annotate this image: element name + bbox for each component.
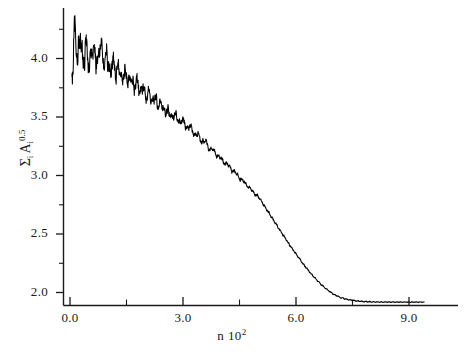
y-major-ticks xyxy=(56,59,64,293)
x-tick-label-0-0: 0.0 xyxy=(50,310,90,326)
x-minor-ticks xyxy=(127,300,353,306)
y-tick-label-2-5: 2.5 xyxy=(18,225,48,241)
x-tick-label-3-0: 3.0 xyxy=(163,310,203,326)
axes-group xyxy=(64,8,459,306)
x-tick-label-6-0: 6.0 xyxy=(276,310,316,326)
x-axis-title-exponent: 2 xyxy=(242,327,247,337)
x-tick-label-9-0: 9.0 xyxy=(389,310,429,326)
y-tick-label-4-0: 4.0 xyxy=(18,50,48,66)
y-tick-label-2-0: 2.0 xyxy=(18,284,48,300)
y-axis-title: ΣiAi0.5 xyxy=(18,108,34,188)
figure-container: 4.0 3.5 3.0 2.5 2.0 0.0 3.0 6.0 9.0 n 10… xyxy=(0,0,464,356)
y-axis-variable-subscript: i xyxy=(25,141,35,144)
x-axis-title-base: n 10 xyxy=(217,328,241,343)
y-axis-sigma: Σ xyxy=(18,158,33,166)
y-axis-variable: A xyxy=(18,143,33,155)
x-axis-title: n 102 xyxy=(0,328,464,344)
chart-canvas xyxy=(0,0,464,356)
y-axis-variable-superscript: 0.5 xyxy=(17,130,27,141)
data-series-line xyxy=(72,15,424,302)
